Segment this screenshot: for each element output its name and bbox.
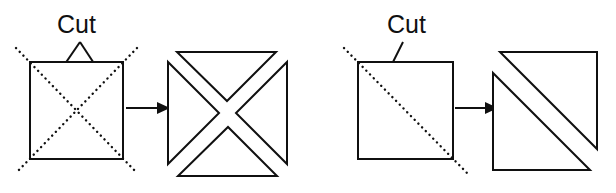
left-cut-label: Cut [57, 10, 96, 38]
right-source-square [358, 62, 453, 159]
figure-container: Cut [0, 0, 616, 193]
right-connector-arrow [455, 102, 498, 114]
left-connector-arrow [126, 102, 170, 114]
cut-diagram-svg: Cut [0, 0, 616, 193]
left-panel-group: Cut [16, 10, 287, 176]
right-cut-label: Cut [387, 10, 426, 38]
left-source-square [30, 62, 123, 159]
right-result-two-triangles [493, 52, 597, 170]
left-result-four-triangles [168, 52, 287, 176]
right-panel-group: Cut [344, 10, 597, 173]
